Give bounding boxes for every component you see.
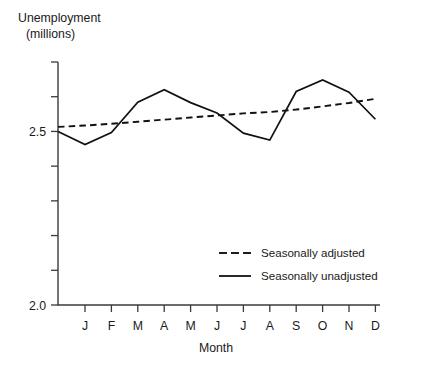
chart-container: Unemployment (millions) 2.02.5 JFMAMJJAS… bbox=[0, 0, 421, 374]
x-tick-label: S bbox=[292, 319, 300, 333]
x-tick-label: D bbox=[371, 319, 380, 333]
y-tick-label: 2.0 bbox=[29, 299, 46, 313]
x-tick-label: N bbox=[345, 319, 354, 333]
x-tick-label: M bbox=[185, 319, 195, 333]
legend-label-seasonally-adjusted: Seasonally adjusted bbox=[261, 246, 365, 259]
x-axis-title: Month bbox=[199, 341, 233, 355]
y-axis-ticks bbox=[51, 62, 58, 305]
series-seasonally-unadjusted bbox=[58, 80, 375, 145]
y-axis-tick-labels: 2.02.5 bbox=[29, 125, 46, 313]
unemployment-line-chart: Unemployment (millions) 2.02.5 JFMAMJJAS… bbox=[0, 0, 421, 374]
y-axis-label-line2: (millions) bbox=[26, 27, 75, 41]
legend-label-seasonally-unadjusted: Seasonally unadjusted bbox=[261, 269, 378, 282]
x-tick-label: F bbox=[108, 319, 116, 333]
y-axis-label-line1: Unemployment bbox=[18, 11, 101, 25]
x-tick-label: J bbox=[214, 319, 220, 333]
x-axis-ticks bbox=[85, 305, 375, 312]
x-tick-label: J bbox=[240, 319, 246, 333]
y-tick-label: 2.5 bbox=[29, 125, 46, 139]
x-tick-label: J bbox=[82, 319, 88, 333]
chart-legend: Seasonally adjusted Seasonally unadjuste… bbox=[219, 246, 378, 282]
x-tick-label: A bbox=[266, 319, 275, 333]
x-tick-label: A bbox=[160, 319, 169, 333]
x-tick-label: O bbox=[318, 319, 328, 333]
x-tick-label: M bbox=[133, 319, 143, 333]
x-axis-tick-labels: JFMAMJJASOND bbox=[82, 319, 380, 333]
